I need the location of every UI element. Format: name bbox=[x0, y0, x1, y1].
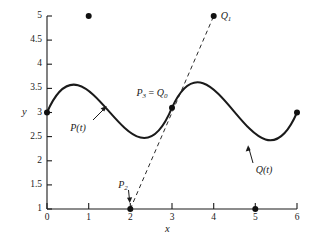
annotation-p3-eq-q0: P3 = Q0 bbox=[137, 88, 168, 100]
axis-lines bbox=[47, 16, 297, 209]
point-p1 bbox=[86, 13, 92, 19]
q0-subscript: 0 bbox=[164, 92, 168, 100]
x-tick-label-2: 2 bbox=[128, 213, 133, 223]
annotation-p2: P2 bbox=[118, 180, 128, 192]
x-tick-label-4: 4 bbox=[211, 213, 216, 223]
y-tick-label-1-5: 1.5 bbox=[30, 180, 42, 190]
y-tick-label-3: 3 bbox=[37, 108, 42, 118]
control-point-markers bbox=[44, 13, 300, 212]
y-tick-label-2-5: 2.5 bbox=[30, 132, 42, 142]
point-q3 bbox=[294, 110, 300, 116]
x-tick-label-5: 5 bbox=[253, 213, 258, 223]
curve-q-of-t bbox=[172, 82, 297, 140]
y-axis-title: y bbox=[22, 107, 27, 118]
y-tick-label-2: 2 bbox=[37, 156, 42, 166]
y-tick-label-3-5: 3.5 bbox=[30, 84, 42, 94]
q1-subscript: 1 bbox=[228, 15, 232, 23]
annotation-q1: Q1 bbox=[221, 11, 232, 23]
x-tick-label-3: 3 bbox=[170, 213, 175, 223]
annotation-q-of-t: Q(t) bbox=[256, 165, 273, 175]
point-p0 bbox=[44, 110, 50, 116]
tangent-dashed-line bbox=[130, 16, 213, 209]
equals-sign: = bbox=[146, 87, 157, 98]
x-axis-title: x bbox=[165, 224, 170, 235]
x-tick-label-6: 6 bbox=[295, 213, 300, 223]
point-q1 bbox=[211, 13, 217, 19]
y-tick-label-4-5: 4.5 bbox=[30, 35, 42, 45]
plot-canvas bbox=[0, 0, 312, 246]
p2-subscript: 2 bbox=[124, 184, 128, 192]
annotation-p-of-t: P(t) bbox=[70, 123, 86, 133]
x-tick-label-1: 1 bbox=[86, 213, 91, 223]
x-axis-ticks bbox=[47, 203, 297, 209]
y-tick-label-5: 5 bbox=[37, 11, 42, 21]
bezier-curve-figure: 5 4.5 4 3.5 3 2.5 2 1.5 1 0 1 2 3 4 5 6 … bbox=[0, 0, 312, 246]
y-tick-label-4: 4 bbox=[37, 59, 42, 69]
point-p3-q0 bbox=[169, 105, 175, 111]
x-tick-label-0: 0 bbox=[45, 213, 50, 223]
y-tick-label-1: 1 bbox=[37, 204, 42, 214]
p2-arrowhead bbox=[127, 197, 132, 203]
